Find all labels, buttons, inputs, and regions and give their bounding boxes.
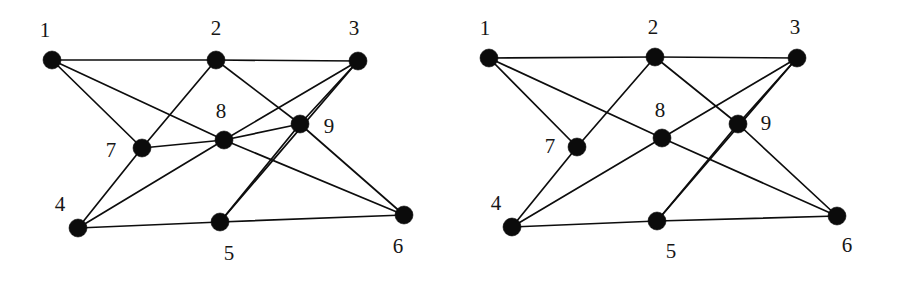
graph-panel-left: 123456789 [0,0,449,282]
graph-vertex-label-2-left: 2 [211,16,222,40]
graph-vertex-label-2-right: 2 [648,15,659,39]
graph-vertex-label-6-right: 6 [842,233,853,257]
graph-edge-1-2-right [489,57,655,58]
graph-vertex-label-8-right: 8 [655,98,666,122]
node-layer-left [43,51,413,237]
graph-vertex-label-8-left: 8 [216,99,227,123]
graph-vertex-label-9-left: 9 [324,114,335,138]
graph-edge-2-3-left [216,60,358,61]
graph-vertex-2-right [646,48,664,66]
graph-vertex-4-right [503,218,521,236]
graph-edge-2-9-right [655,57,738,124]
graph-edge-3-8-left [224,61,358,140]
graph-edge-6-8-left [224,140,404,215]
graph-vertex-label-9-right: 9 [761,111,772,135]
graph-vertex-label-6-left: 6 [393,234,404,258]
graph-vertex-1-right [480,49,498,67]
graph-edge-2-7-left [142,60,216,148]
graph-edge-4-7-right [512,147,577,227]
graph-vertex-6-right [828,207,846,225]
graph-vertex-7-right [568,138,586,156]
graph-edge-4-8-right [512,138,662,227]
graph-vertex-label-1-right: 1 [480,16,491,40]
graph-vertex-8-right [653,129,671,147]
graph-vertex-5-right [648,212,666,230]
graph-edge-6-9-right [738,124,837,216]
graph-vertex-7-left [133,139,151,157]
graph-vertex-label-4-right: 4 [491,191,502,215]
graph-vertex-label-7-right: 7 [545,134,556,158]
graph-vertex-label-4-left: 4 [55,192,66,216]
node-layer-right [480,48,846,236]
graph-vertex-label-5-left: 5 [224,241,235,265]
graph-vertex-1-left [43,51,61,69]
graph-edge-1-7-right [489,58,577,147]
graph-vertex-2-left [207,51,225,69]
graph-vertex-label-7-left: 7 [106,138,117,162]
graph-vertex-label-1-left: 1 [40,18,51,42]
graph-vertex-9-right [729,115,747,133]
graph-vertex-label-3-left: 3 [349,16,360,40]
graph-edge-5-6-left [220,215,404,222]
graph-vertex-3-left [349,52,367,70]
graph-edge-1-7-left [52,60,142,148]
graph-edge-6-9-left [300,124,404,215]
figure-root: 123456789 123456789 [0,0,898,282]
graph-edge-4-5-right [512,221,657,227]
graph-drawing-left: 123456789 [0,0,449,282]
graph-vertex-4-left [69,219,87,237]
graph-edge-6-8-right [662,138,837,216]
graph-edge-5-6-right [657,216,837,221]
graph-edge-2-7-right [577,57,655,147]
graph-edge-4-8-left [78,140,224,228]
graph-edge-4-5-left [78,222,220,228]
graph-drawing-right: 123456789 [449,0,898,282]
graph-edge-1-8-left [52,60,224,140]
graph-panel-right: 123456789 [449,0,898,282]
graph-edge-2-9-left [216,60,300,124]
graph-edge-1-8-right [489,58,662,138]
graph-vertex-8-left [215,131,233,149]
graph-vertex-5-left [211,213,229,231]
graph-vertex-label-5-right: 5 [666,239,677,263]
graph-vertex-label-3-right: 3 [790,15,801,39]
graph-vertex-6-left [395,206,413,224]
graph-vertex-3-right [788,49,806,67]
graph-vertex-9-left [291,115,309,133]
graph-edge-2-3-right [655,57,797,58]
